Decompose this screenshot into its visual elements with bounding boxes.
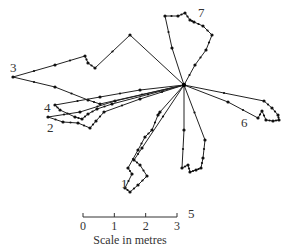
direction-marker <box>162 115 164 117</box>
waypoint-dot <box>61 120 64 123</box>
path-6 <box>184 85 281 123</box>
waypoint-dot <box>76 121 79 124</box>
waypoint-dot <box>270 106 273 109</box>
waypoint-dot <box>102 110 105 113</box>
waypoint-dot <box>210 33 213 36</box>
waypoint-dot <box>199 166 202 169</box>
direction-marker <box>33 70 35 72</box>
waypoint-dot <box>98 102 101 105</box>
waypoint-dot <box>138 88 141 91</box>
scale-title: Scale in metres <box>93 233 167 247</box>
direction-marker <box>170 15 172 17</box>
waypoint-dot <box>73 115 76 118</box>
waypoint-dot <box>271 119 274 122</box>
direction-marker <box>167 31 169 33</box>
waypoint-dot <box>143 135 146 138</box>
waypoint-dot <box>170 46 173 49</box>
direction-marker <box>76 100 78 102</box>
waypoint-dot <box>78 110 81 113</box>
direction-marker <box>92 123 94 125</box>
direction-marker <box>85 58 87 60</box>
scale-tick-label: 0 <box>80 219 86 233</box>
paths-layer <box>11 11 280 193</box>
direction-marker <box>141 93 143 95</box>
waypoint-dot <box>86 61 89 64</box>
waypoint-dot <box>145 174 148 177</box>
path-label-1: 1 <box>121 176 128 191</box>
waypoint-dot <box>93 66 96 69</box>
direction-marker <box>223 92 225 94</box>
waypoint-dot <box>11 75 14 78</box>
waypoint-dot <box>226 100 229 103</box>
direction-marker <box>136 161 138 163</box>
path-3 <box>11 33 184 105</box>
direction-marker <box>147 93 149 95</box>
waypoint-dot <box>53 63 56 66</box>
waypoint-dot <box>276 113 279 116</box>
direction-marker <box>140 142 142 144</box>
direction-marker <box>259 113 261 115</box>
waypoint-dot <box>203 138 206 141</box>
waypoint-dot <box>201 156 204 159</box>
waypoint-dot <box>46 115 49 118</box>
scale-tick-label: 1 <box>111 219 117 233</box>
waypoint-dot <box>132 158 135 161</box>
path-label-4: 4 <box>44 100 51 115</box>
direction-marker <box>180 13 182 15</box>
waypoint-dot <box>136 148 139 151</box>
waypoint-dot <box>86 112 89 115</box>
direction-marker <box>121 104 123 106</box>
waypoint-dot <box>110 102 113 105</box>
scale-tick-label: 2 <box>143 219 149 233</box>
direction-marker <box>263 114 265 116</box>
waypoint-dot <box>80 117 83 120</box>
waypoint-dot <box>262 99 265 102</box>
direction-marker <box>33 81 35 83</box>
direction-marker <box>93 101 95 103</box>
direction-marker <box>188 167 190 169</box>
path-line <box>48 85 184 128</box>
path-label-2: 2 <box>47 120 54 135</box>
path-7 <box>163 11 213 85</box>
direction-marker <box>111 50 113 52</box>
direction-marker <box>70 92 72 94</box>
waypoint-dot <box>53 85 56 88</box>
direction-marker <box>268 119 270 121</box>
direction-marker <box>197 168 199 170</box>
waypoint-dot <box>277 118 280 121</box>
direction-marker <box>69 59 71 61</box>
scale-tick-label: 3 <box>174 219 180 233</box>
path-label-5: 5 <box>188 206 195 221</box>
direction-marker <box>277 116 279 118</box>
waypoint-dot <box>98 95 101 98</box>
waypoint-dot <box>126 166 129 169</box>
waypoint-dot <box>138 163 141 166</box>
direction-marker <box>83 124 85 126</box>
nest-origin <box>182 83 186 87</box>
direction-marker <box>147 132 149 134</box>
direction-marker <box>129 170 131 172</box>
waypoint-dot <box>182 128 185 131</box>
direction-marker <box>184 165 186 167</box>
direction-marker <box>188 74 190 76</box>
waypoint-dot <box>58 108 61 111</box>
direction-marker <box>141 179 143 181</box>
waypoint-dot <box>163 14 166 17</box>
path-line <box>182 85 205 172</box>
waypoint-dot <box>128 190 131 193</box>
waypoint-dot <box>128 33 131 36</box>
path-5 <box>180 85 206 174</box>
waypoint-dot <box>256 116 259 119</box>
path-label-6: 6 <box>241 115 248 130</box>
waypoint-dot <box>88 126 91 129</box>
direction-marker <box>193 111 195 113</box>
waypoint-dot <box>138 97 141 100</box>
waypoint-dot <box>140 146 143 149</box>
waypoint-dot <box>156 113 159 116</box>
direction-marker <box>56 106 58 108</box>
waypoint-dot <box>260 109 263 112</box>
direction-marker <box>142 169 144 171</box>
direction-marker <box>66 112 68 114</box>
waypoint-dot <box>194 168 197 171</box>
path-label-7: 7 <box>198 5 205 20</box>
